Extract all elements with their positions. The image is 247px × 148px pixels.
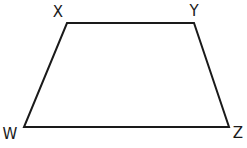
trapezoid-diagram: X Y Z W: [0, 0, 247, 148]
vertex-label-x: X: [53, 3, 63, 21]
vertex-label-z: Z: [233, 124, 243, 142]
trapezoid-wxyz: [24, 23, 229, 127]
vertex-label-y: Y: [188, 2, 199, 20]
vertex-label-w: W: [3, 125, 18, 143]
